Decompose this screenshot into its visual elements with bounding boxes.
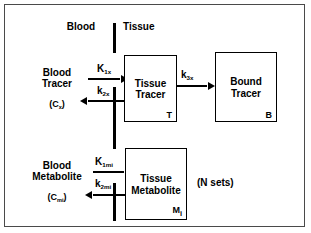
blood-tracer-conc-sub: x <box>59 104 62 110</box>
k2mi-base: k <box>95 178 101 189</box>
blood-metabolite-line1: Blood <box>43 160 71 171</box>
tissue-tracer-line2: Tracer <box>135 89 165 100</box>
compartment-blood-tracer: Blood Tracer <box>19 67 95 89</box>
tissue-metabolite-corner-base: M <box>172 205 180 215</box>
rate-constant-k3x: k3x <box>181 69 193 80</box>
blood-tracer-conc-close: ) <box>62 99 65 109</box>
arrow-K1mi <box>93 171 124 173</box>
k2x-base: k <box>97 85 103 96</box>
compartment-bound-tracer: Bound Tracer B <box>215 52 277 122</box>
K1x-sub: 1x <box>104 68 111 75</box>
rate-constant-K1x: K1x <box>97 63 111 74</box>
blood-tissue-barrier-segment-3 <box>113 183 116 221</box>
diagram-frame: Blood Tissue Blood Tracer (Cx) K1x k2x T… <box>4 4 305 227</box>
blood-tracer-line2: Tracer <box>42 78 72 89</box>
blood-tracer-conc-open: (C <box>49 99 59 109</box>
tissue-metabolite-line2: Metabolite <box>131 184 180 195</box>
blood-tissue-barrier-segment-1 <box>113 23 116 53</box>
tissue-tracer-corner-symbol: T <box>167 110 173 120</box>
bound-tracer-line2: Tracer <box>231 87 261 98</box>
compartment-tissue-metabolite: Tissue Metabolite Mi <box>125 148 187 220</box>
tissue-metabolite-corner-sub: i <box>180 209 182 218</box>
blood-metabolite-conc-sub: mi <box>57 197 64 203</box>
tissue-tracer-label: Tissue Tracer <box>125 77 176 100</box>
compartment-tissue-tracer: Tissue Tracer T <box>124 55 177 122</box>
compartment-blood-metabolite: Blood Metabolite <box>11 160 103 182</box>
tissue-metabolite-line1: Tissue <box>140 173 172 184</box>
region-label-tissue: Tissue <box>123 21 155 32</box>
bound-tracer-corner-symbol: B <box>266 110 273 120</box>
blood-tracer-line1: Blood <box>43 67 71 78</box>
arrow-K1x <box>88 78 120 80</box>
rate-constant-k2x: k2x <box>97 85 109 96</box>
blood-metabolite-conc-open: (C <box>47 192 57 202</box>
rate-constant-k2mi: k2mi <box>95 178 111 189</box>
k2x-sub: 2x <box>103 90 110 97</box>
region-label-blood: Blood <box>55 21 107 32</box>
arrow-k3x <box>177 85 207 87</box>
tissue-metabolite-corner-symbol: Mi <box>172 205 182 218</box>
arrow-k2mi <box>93 194 127 196</box>
k3x-sub: 3x <box>187 74 194 81</box>
tissue-metabolite-label: Tissue Metabolite <box>126 173 186 196</box>
annotation-n-sets: (N sets) <box>197 177 234 188</box>
K1mi-sub: 1mi <box>102 161 113 168</box>
tissue-tracer-line1: Tissue <box>135 77 167 88</box>
arrow-k2x <box>88 100 124 102</box>
bound-tracer-line1: Bound <box>230 76 262 87</box>
diagram-canvas: Blood Tissue Blood Tracer (Cx) K1x k2x T… <box>5 5 306 228</box>
k2mi-sub: 2mi <box>101 183 112 190</box>
bound-tracer-label: Bound Tracer <box>216 76 276 99</box>
blood-metabolite-line2: Metabolite <box>32 171 81 182</box>
blood-tissue-barrier-segment-2 <box>113 87 116 149</box>
rate-constant-K1mi: K1mi <box>95 156 113 167</box>
k3x-base: k <box>181 69 187 80</box>
